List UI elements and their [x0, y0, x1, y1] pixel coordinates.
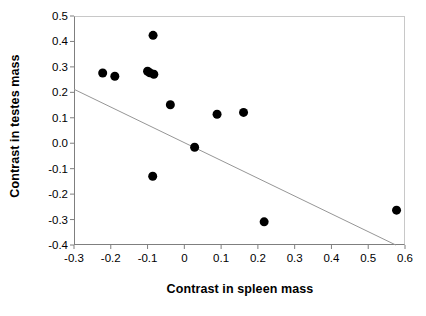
x-axis-tick-label: 0.2 — [238, 252, 278, 264]
y-axis-tick-label: -0.1 — [36, 163, 68, 175]
data-point — [239, 108, 248, 117]
y-axis-tick-label: -0.2 — [36, 188, 68, 200]
y-axis-tick-label: 0.2 — [36, 86, 68, 98]
x-axis-tick-label: 0.6 — [385, 252, 425, 264]
data-points — [98, 31, 401, 227]
trend-line — [74, 89, 396, 245]
y-axis-title: Contrast in testes mass — [4, 8, 26, 244]
y-axis-tick-label: 0.0 — [36, 137, 68, 149]
y-axis-tick-label: 0.1 — [36, 112, 68, 124]
x-axis-tick-label: 0 — [164, 252, 204, 264]
x-axis-tick-label: 0.4 — [311, 252, 351, 264]
x-axis-tick-labels: -0.3-0.2-0.100.10.20.30.40.50.6 — [74, 252, 405, 268]
x-axis-tick-label: -0.3 — [54, 252, 94, 264]
plot-graphics-layer — [74, 16, 405, 245]
data-point — [190, 143, 199, 152]
y-axis-tick-label: -0.3 — [36, 214, 68, 226]
axis-ticks — [70, 16, 405, 249]
x-axis-tick-label: 0.3 — [275, 252, 315, 264]
data-point — [149, 70, 158, 79]
x-axis-tick-label: 0.1 — [201, 252, 241, 264]
y-axis-tick-label: 0.3 — [36, 61, 68, 73]
data-point — [98, 68, 107, 77]
x-axis-tick-label: -0.1 — [128, 252, 168, 264]
plot-area — [74, 16, 405, 245]
y-axis-tick-labels: 0.50.40.30.20.10.0-0.1-0.2-0.3-0.4 — [30, 16, 68, 245]
x-axis-tick-label: 0.5 — [348, 252, 388, 264]
y-axis-tick-label: 0.4 — [36, 35, 68, 47]
trend-line-segment — [74, 89, 396, 245]
data-point — [392, 206, 401, 215]
y-axis-tick-label: 0.5 — [36, 10, 68, 22]
data-point — [260, 217, 269, 226]
data-point — [166, 100, 175, 109]
x-axis-title: Contrast in spleen mass — [74, 282, 406, 296]
x-axis-tick-label: -0.2 — [91, 252, 131, 264]
data-point — [110, 72, 119, 81]
data-point — [148, 172, 157, 181]
data-point — [149, 31, 158, 40]
scatter-plot-figure: Contrast in testes mass 0.50.40.30.20.10… — [0, 0, 426, 316]
data-point — [213, 110, 222, 119]
y-axis-tick-label: -0.4 — [36, 239, 68, 251]
